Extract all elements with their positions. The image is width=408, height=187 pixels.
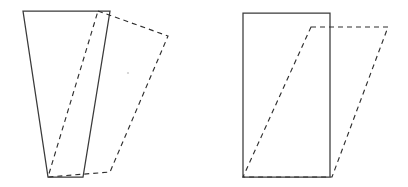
scan-specks (127, 72, 129, 74)
figure-background (0, 0, 408, 187)
geometry-figure-canvas (0, 0, 408, 187)
scan-speck (127, 72, 129, 74)
